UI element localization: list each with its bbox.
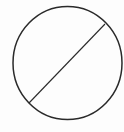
circle-with-chord-figure <box>0 0 124 132</box>
diagram-canvas: Circle with a chord (diameter-like line)… <box>0 0 124 132</box>
chord-line <box>29 24 105 103</box>
